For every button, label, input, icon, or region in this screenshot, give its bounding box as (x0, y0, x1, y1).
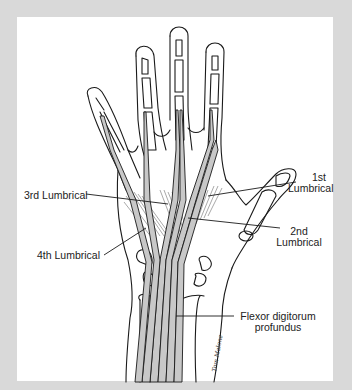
little-finger-outline (87, 88, 140, 178)
label-1st-lumbrical: 1st Lumbrical (288, 172, 332, 194)
artist-signature: Tom Malone (210, 334, 223, 373)
label-fdp-line2: profundus (238, 322, 318, 333)
label-4th-lumbrical: 4th Lumbrical (37, 250, 100, 261)
label-1st-lumbrical-line2: Lumbrical (288, 183, 332, 194)
label-2nd-lumbrical: 2nd Lumbrical (276, 226, 322, 248)
label-3rd-lumbrical: 3rd Lumbrical (24, 190, 88, 201)
label-2nd-lumbrical-line2: Lumbrical (276, 237, 322, 248)
leader-3rd-lumbrical (86, 194, 168, 204)
palm-ulnar-edge (117, 170, 132, 382)
label-flexor-digitorum-profundus: Flexor digitorum profundus (238, 311, 318, 333)
leader-2nd-lumbrical (188, 218, 280, 228)
radius (195, 296, 200, 382)
